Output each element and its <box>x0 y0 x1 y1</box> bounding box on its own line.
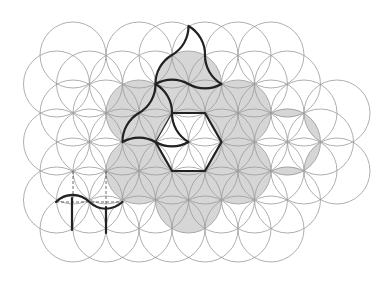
circle-lattice-diagram <box>0 0 390 283</box>
